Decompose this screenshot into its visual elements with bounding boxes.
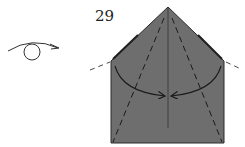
origami-step-diagram: 29 xyxy=(0,0,245,147)
paper-model xyxy=(111,7,224,143)
left-extension-line xyxy=(90,62,110,70)
turn-over-icon xyxy=(8,43,59,60)
right-extension-line xyxy=(226,62,241,69)
step-number: 29 xyxy=(95,7,114,25)
